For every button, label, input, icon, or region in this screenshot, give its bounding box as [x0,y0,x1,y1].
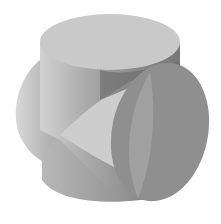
top-face [40,14,180,70]
figure-canvas [0,0,221,224]
intersecting-cylinders-solid [0,0,221,224]
